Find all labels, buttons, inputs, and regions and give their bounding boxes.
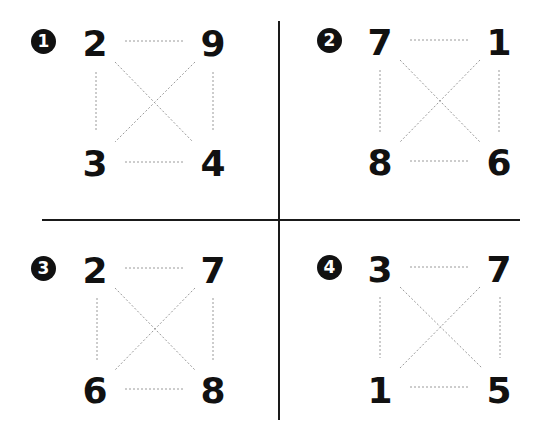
puzzle-number-badge: 4 <box>317 255 342 280</box>
vertical-divider <box>278 21 280 420</box>
puzzle-3: 3 2 7 6 8 <box>30 262 230 422</box>
number-bottom-right: 4 <box>198 146 228 182</box>
number-top-left: 7 <box>365 25 395 61</box>
number-top-right: 7 <box>484 252 514 288</box>
puzzle-number-badge: 1 <box>31 29 56 54</box>
number-bottom-right: 6 <box>484 145 514 181</box>
number-bottom-left: 3 <box>80 146 110 182</box>
number-bottom-left: 8 <box>365 145 395 181</box>
puzzle-4: 4 3 7 1 5 <box>316 262 516 422</box>
puzzle-2: 2 7 1 8 6 <box>316 22 516 182</box>
horizontal-divider <box>42 219 520 221</box>
number-bottom-left: 1 <box>365 373 395 409</box>
number-top-right: 9 <box>198 26 228 62</box>
puzzle-1: 1 2 9 3 4 <box>30 22 230 182</box>
number-bottom-right: 8 <box>198 373 228 409</box>
number-bottom-right: 5 <box>484 373 514 409</box>
number-bottom-left: 6 <box>80 373 110 409</box>
number-top-left: 2 <box>80 26 110 62</box>
number-top-left: 3 <box>365 252 395 288</box>
number-top-left: 2 <box>80 253 110 289</box>
number-top-right: 1 <box>484 25 514 61</box>
number-top-right: 7 <box>198 253 228 289</box>
puzzle-number-badge: 2 <box>317 28 342 53</box>
puzzle-number-badge: 3 <box>31 256 56 281</box>
